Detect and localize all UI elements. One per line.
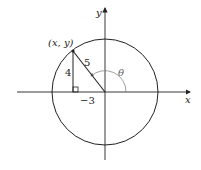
angle-label: θ bbox=[118, 67, 124, 78]
horizontal-leg-label: −3 bbox=[80, 95, 95, 106]
diagram-canvas: (x, y) 5 4 −3 θ x y bbox=[0, 0, 201, 170]
point-label: (x, y) bbox=[48, 37, 74, 48]
point-marker bbox=[71, 49, 74, 52]
x-axis-label: x bbox=[185, 94, 191, 105]
hypotenuse-label: 5 bbox=[84, 57, 90, 68]
y-axis-label: y bbox=[95, 7, 102, 18]
right-angle-marker bbox=[73, 87, 78, 92]
vertical-leg-label: 4 bbox=[65, 67, 71, 78]
